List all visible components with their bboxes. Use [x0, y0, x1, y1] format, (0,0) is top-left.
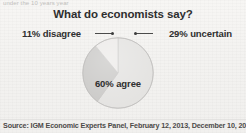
- leader-line-uncertain: [136, 33, 153, 34]
- cropped-header-text: under the 10 years year: [3, 0, 153, 7]
- footer-divider: [0, 119, 246, 120]
- slice-label-uncertain: 29% uncertain: [169, 28, 232, 39]
- source-note: Source: IGM Economic Experts Panel, Febr…: [3, 121, 246, 130]
- chart-figure: under the 10 years year What do economis…: [0, 0, 246, 133]
- chart-title: What do economists say?: [0, 8, 246, 20]
- slice-label-agree: 60% agree: [86, 78, 150, 89]
- pie-sheen: [83, 38, 153, 108]
- slice-label-disagree: 11% disagree: [22, 28, 81, 39]
- leader-dot-disagree: [111, 32, 114, 35]
- leader-dot-uncertain: [134, 32, 137, 35]
- pie-chart: [82, 37, 154, 109]
- pie-svg: [82, 37, 154, 109]
